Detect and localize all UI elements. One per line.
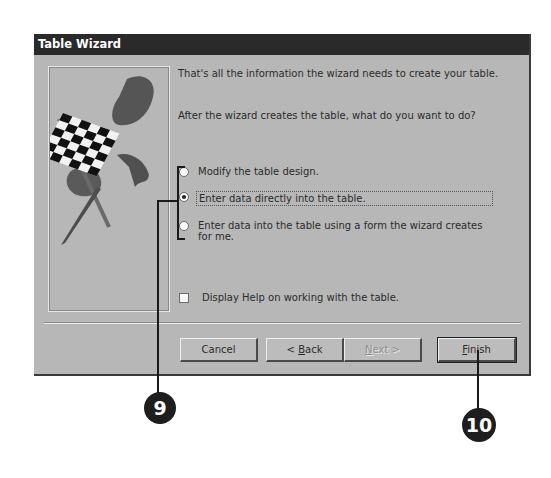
help-checkbox-label: Display Help on working with the table. (202, 292, 399, 303)
next-button: Next > (344, 338, 422, 362)
radio-modify-design[interactable]: Modify the table design. (179, 166, 319, 177)
wizard-illustration-panel (48, 66, 170, 312)
separator (44, 322, 521, 324)
question-text: After the wizard creates the table, what… (178, 110, 476, 121)
callout-9-badge: 9 (144, 392, 176, 424)
radio-label: Modify the table design. (196, 166, 319, 177)
radio-label: Enter data directly into the table. (196, 191, 493, 206)
callout-10-badge: 10 (462, 408, 496, 442)
option-group-bracket (177, 166, 185, 240)
help-checkbox[interactable] (179, 293, 189, 303)
callout-9-line (157, 200, 159, 394)
radio-enter-data-directly[interactable]: Enter data directly into the table. (179, 191, 493, 206)
checkered-flag-icon (49, 67, 167, 309)
dialog-title: Table Wizard (38, 37, 121, 51)
title-bar: Table Wizard (34, 34, 529, 55)
callout-10-line (477, 350, 479, 410)
back-button[interactable]: < Back (266, 338, 344, 362)
cancel-button[interactable]: Cancel (180, 338, 258, 362)
table-wizard-dialog: Table Wizard T (34, 34, 531, 376)
radio-label: Enter data into the table using a form t… (196, 220, 482, 242)
help-checkbox-row[interactable]: Display Help on working with the table. (179, 292, 399, 303)
intro-text: That's all the information the wizard ne… (178, 68, 498, 79)
callout-9-connector (157, 200, 179, 202)
radio-enter-data-form[interactable]: Enter data into the table using a form t… (179, 220, 482, 242)
